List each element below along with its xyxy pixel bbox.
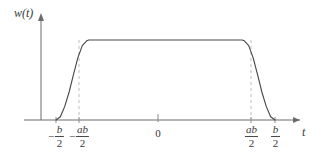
fraction-denominator: 2 — [273, 137, 279, 149]
minus-sign: − — [69, 131, 76, 142]
fraction: ab 2 — [76, 124, 89, 149]
minus-sign: − — [48, 131, 55, 142]
tick-label-ab-over-2: ab 2 — [244, 124, 258, 149]
tick-label-zero: 0 — [155, 128, 161, 139]
window-curve — [56, 40, 275, 120]
fraction: ab 2 — [245, 124, 258, 149]
fraction-numerator: ab — [245, 124, 258, 136]
tukey-window-figure: w(t) t − b 2 − ab 2 0 ab 2 b 2 — [0, 0, 315, 158]
y-axis-arrowhead — [38, 13, 44, 21]
tick-label-neg-ab-over-2: − ab 2 — [69, 124, 89, 149]
fraction-denominator: 2 — [80, 137, 86, 149]
x-axis-arrowhead — [293, 117, 300, 123]
fraction-numerator: b — [272, 124, 280, 136]
fraction: b 2 — [55, 124, 64, 149]
tick-label-b-over-2: b 2 — [270, 124, 280, 149]
x-axis-label: t — [302, 126, 305, 138]
fraction-numerator: ab — [76, 124, 89, 136]
fraction: b 2 — [271, 124, 280, 149]
fraction-denominator: 2 — [57, 137, 63, 149]
tick-label-neg-b-over-2: − b 2 — [48, 124, 64, 149]
fraction-numerator: b — [56, 124, 64, 136]
y-axis-label: w(t) — [14, 7, 33, 19]
fraction-denominator: 2 — [249, 137, 255, 149]
